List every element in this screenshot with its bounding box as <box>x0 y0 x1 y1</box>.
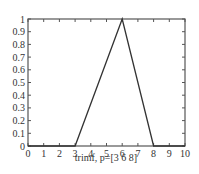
axes-box <box>28 19 185 146</box>
y-tick-label: 0.8 <box>13 39 26 50</box>
trimf-chart: 012345678910 00.10.20.30.40.50.60.70.80.… <box>0 0 199 174</box>
y-tick-label: 0.2 <box>13 115 26 126</box>
x-tick-label: 10 <box>180 148 190 159</box>
y-tick-label: 0.1 <box>13 128 26 139</box>
trimf-line <box>28 19 185 146</box>
x-tick-label: 9 <box>167 148 172 159</box>
y-tick-label: 0.3 <box>13 102 26 113</box>
y-tick-label: 0.5 <box>13 77 26 88</box>
data-series <box>28 19 185 146</box>
x-tick-label: 8 <box>151 148 156 159</box>
y-tick-label: 1 <box>20 14 25 25</box>
x-axis-label: trimf, p=[3 6 8] <box>75 152 137 163</box>
x-tick-label: 1 <box>41 148 46 159</box>
x-axis-ticks: 012345678910 <box>26 19 191 159</box>
y-tick-label: 0.9 <box>13 26 26 37</box>
x-tick-label: 0 <box>26 148 31 159</box>
y-tick-label: 0 <box>20 141 25 152</box>
y-tick-label: 0.6 <box>13 64 26 75</box>
x-tick-label: 2 <box>57 148 62 159</box>
y-tick-label: 0.7 <box>13 52 26 63</box>
plot-frame <box>28 19 185 146</box>
y-tick-label: 0.4 <box>13 90 26 101</box>
